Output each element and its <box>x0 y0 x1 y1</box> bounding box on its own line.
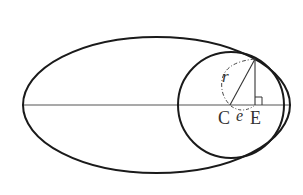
ellipse-circle-diagram: r C e E <box>0 0 303 195</box>
radius-line <box>230 59 255 105</box>
label-C: C <box>218 108 230 128</box>
label-E: E <box>250 108 261 128</box>
right-angle-marker <box>255 97 262 105</box>
label-e: e <box>236 107 243 124</box>
label-r: r <box>222 67 229 86</box>
